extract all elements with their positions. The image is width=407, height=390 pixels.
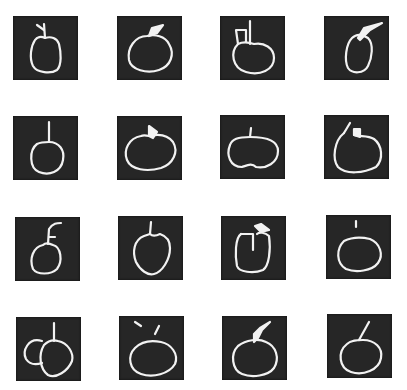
apple-drawing-icon <box>324 16 389 80</box>
apple-drawing-icon <box>119 316 184 380</box>
apple-sketch-tile <box>13 16 78 80</box>
apple-drawing-icon <box>117 116 182 180</box>
apple-drawing-icon <box>220 16 285 80</box>
apple-sketch-tile <box>220 16 285 80</box>
apple-sketch-tile <box>119 316 184 380</box>
apple-sketch-tile <box>324 16 389 80</box>
apple-drawing-icon <box>222 316 287 380</box>
apple-sketch-tile <box>222 316 287 380</box>
apple-drawing-icon <box>13 116 78 180</box>
apple-drawing-icon <box>15 217 80 281</box>
apple-sketch-tile <box>118 216 183 280</box>
apple-sketch-tile <box>220 115 285 179</box>
apple-sketch-tile <box>221 216 286 280</box>
apple-drawing-icon <box>13 16 78 80</box>
apple-drawing-icon <box>327 314 392 378</box>
apple-sketch-tile <box>327 314 392 378</box>
apple-sketch-tile <box>117 116 182 180</box>
apple-drawing-icon <box>16 317 81 381</box>
apple-sketch-tile <box>16 317 81 381</box>
apple-drawing-icon <box>220 115 285 179</box>
apple-sketch-tile <box>15 217 80 281</box>
apple-sketch-tile <box>324 115 389 179</box>
apple-drawing-icon <box>117 16 182 80</box>
apple-sketch-tile <box>13 116 78 180</box>
apple-drawing-icon <box>324 115 389 179</box>
apple-sketch-tile <box>326 215 391 279</box>
apple-drawing-icon <box>221 216 286 280</box>
apple-sketch-tile <box>117 16 182 80</box>
apple-drawing-icon <box>118 216 183 280</box>
apple-drawing-icon <box>326 215 391 279</box>
